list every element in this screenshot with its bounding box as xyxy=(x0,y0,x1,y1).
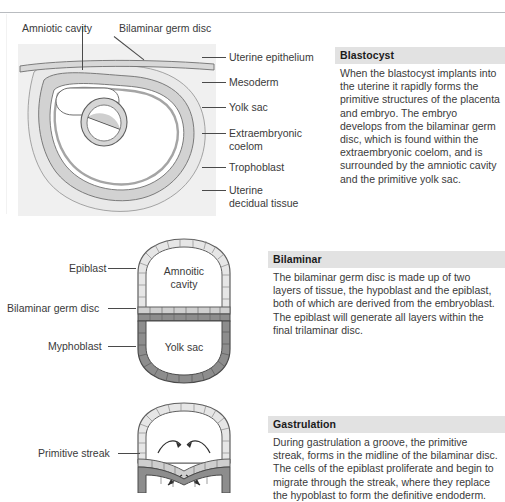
bilaminar-disc-epiblast-layer xyxy=(138,307,230,314)
panel-blastocyst-body: When the blastocyst implants into the ut… xyxy=(335,64,505,186)
bilaminar-disc-hypoblast-layer xyxy=(138,314,230,321)
leader-uterine-epithelium xyxy=(202,57,226,58)
figure-bilaminar: Amnoitic cavity Yolk sac xyxy=(128,237,240,385)
panel-bilaminar-body: The bilaminar germ disc is made up of tw… xyxy=(268,268,505,337)
figure1-label-amniotic-cavity: Amniotic cavity xyxy=(22,22,92,35)
figure2-inner-label-amniotic-cavity-line2: cavity xyxy=(171,278,199,290)
top-divider xyxy=(0,12,505,13)
panel-bilaminar-heading: Bilaminar xyxy=(268,251,505,268)
figure3-label-primitive-streak: Primitive streak xyxy=(38,447,110,460)
leader-epiblast xyxy=(108,268,136,269)
leader-bilaminar-germ-disc-2 xyxy=(108,308,136,309)
figure1-label-yolk-sac: Yolk sac xyxy=(229,101,268,114)
figure1-label-bilaminar-germ-disc: Bilaminar germ disc xyxy=(119,22,211,35)
figure-blastocyst xyxy=(18,44,216,216)
amniotic-cavity-lumen-3 xyxy=(146,411,222,463)
leader-extraembryonic-coelom xyxy=(202,133,226,134)
leader-mesoderm xyxy=(202,82,226,83)
figure1-label-trophoblast: Trophoblast xyxy=(229,161,284,174)
figure2-label-myphoblast: Myphoblast xyxy=(48,340,102,353)
figure1-label-extraembryonic-coelom: Extraembryonic coelom xyxy=(229,127,303,152)
leader-trophoblast xyxy=(202,167,226,168)
panel-gastrulation: Gastrulation During gastrulation a groov… xyxy=(268,416,505,502)
figure1-label-uterine-decidual-tissue: Uterine decidual tissue xyxy=(229,184,303,209)
leader-yolk-sac xyxy=(202,107,226,108)
left-divider xyxy=(6,14,7,214)
leader-myphoblast xyxy=(108,346,136,347)
figure2-label-epiblast: Epiblast xyxy=(69,262,106,275)
figure1-label-mesoderm: Mesoderm xyxy=(229,76,279,89)
figure1-label-uterine-epithelium: Uterine epithelium xyxy=(229,51,314,64)
leader-primitive-streak xyxy=(118,453,140,454)
figure2-label-bilaminar-germ-disc: Bilaminar germ disc xyxy=(7,302,99,315)
leader-uterine-decidual-tissue xyxy=(202,190,226,191)
figure2-inner-label-yolk-sac: Yolk sac xyxy=(165,341,204,353)
panel-blastocyst: Blastocyst When the blastocyst implants … xyxy=(335,47,505,186)
panel-bilaminar: Bilaminar The bilaminar germ disc is mad… xyxy=(268,251,505,337)
figure-gastrulation xyxy=(128,401,240,493)
panel-gastrulation-heading: Gastrulation xyxy=(268,416,505,433)
panel-blastocyst-heading: Blastocyst xyxy=(335,47,505,64)
panel-gastrulation-body: During gastrulation a groove, the primit… xyxy=(268,433,505,502)
figure2-inner-label-amniotic-cavity-line1: Amnoitic xyxy=(164,265,204,277)
